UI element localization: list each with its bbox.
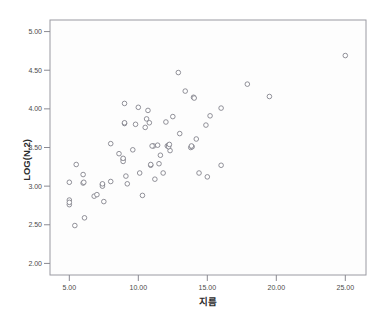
data-point (124, 174, 129, 179)
data-point (167, 142, 172, 147)
x-axis-tick-marks (69, 275, 345, 281)
data-point (102, 199, 107, 204)
data-point (133, 122, 138, 127)
data-point (164, 120, 169, 125)
data-point (137, 171, 142, 176)
x-tick-label: 20.00 (268, 284, 286, 291)
y-tick-label: 2.00 (28, 260, 42, 267)
data-point (197, 171, 202, 176)
data-point (157, 161, 162, 166)
y-tick-label: 4.00 (28, 105, 42, 112)
y-tick-label: 2.50 (28, 221, 42, 228)
data-point (122, 120, 127, 125)
data-point (189, 144, 194, 149)
data-point (161, 171, 166, 176)
data-point (117, 151, 122, 156)
data-point (192, 96, 197, 101)
data-point (194, 137, 199, 142)
y-tick-label: 3.00 (28, 183, 42, 190)
data-point (73, 223, 78, 228)
data-point (67, 200, 72, 205)
data-point (155, 143, 160, 148)
x-tick-label: 25.00 (337, 284, 355, 291)
data-point (177, 131, 182, 136)
data-point (153, 177, 158, 182)
y-axis-tick-marks (44, 32, 50, 264)
y-tick-label: 4.50 (28, 67, 42, 74)
data-point (140, 193, 145, 198)
data-point (219, 163, 224, 168)
data-point (81, 172, 86, 177)
y-tick-label: 5.00 (28, 28, 42, 35)
data-point (158, 153, 163, 158)
data-point (122, 101, 127, 106)
y-axis-title: LOG(N.2) (21, 139, 32, 181)
data-point (130, 148, 135, 153)
data-point (343, 53, 348, 58)
x-axis-title: 지름 (199, 296, 217, 307)
data-point (147, 120, 152, 125)
plot-frame (50, 20, 366, 275)
data-point (204, 123, 209, 128)
data-point (245, 82, 250, 87)
data-point (267, 94, 272, 99)
data-point (150, 144, 155, 149)
data-point (176, 70, 181, 75)
data-point (143, 125, 148, 130)
data-point (208, 114, 213, 119)
data-point (146, 108, 151, 113)
data-point (219, 106, 224, 111)
data-point (67, 180, 72, 185)
data-point (171, 114, 176, 119)
data-point (205, 175, 210, 180)
data-point (74, 162, 79, 167)
data-point (95, 192, 100, 197)
data-point (82, 216, 87, 221)
x-axis-tick-labels: 5.0010.0015.0020.0025.00 (63, 284, 355, 291)
data-point (148, 162, 153, 167)
data-point (100, 182, 105, 187)
data-point (108, 179, 113, 184)
data-point (183, 89, 188, 94)
x-tick-label: 5.00 (63, 284, 77, 291)
x-tick-label: 10.00 (130, 284, 148, 291)
plot-canvas: 5.004.504.003.503.002.502.00 5.0010.0015… (0, 0, 385, 321)
data-point (82, 180, 87, 185)
scatter-plot-figure: 5.004.504.003.503.002.502.00 5.0010.0015… (0, 0, 385, 321)
data-point (125, 182, 130, 187)
data-point (121, 156, 126, 161)
data-point (108, 141, 113, 146)
x-tick-label: 15.00 (199, 284, 217, 291)
data-point (136, 105, 141, 110)
